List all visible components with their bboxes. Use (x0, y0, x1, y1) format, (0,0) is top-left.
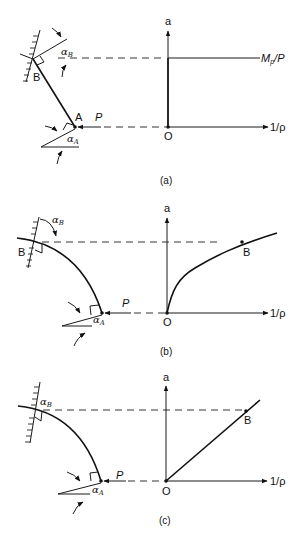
panel-a: B A P αB αA a 1/ρ O Mp/P (a) (20, 15, 285, 186)
plateau-label: Mp/P (261, 52, 285, 66)
member-ba (18, 406, 101, 481)
panel-a-graph: a 1/ρ O Mp/P (164, 15, 285, 142)
member-ba (17, 238, 102, 313)
point-b-dot (244, 409, 248, 413)
label-alpha-a: αA (92, 484, 104, 497)
caption-a: (a) (160, 175, 172, 186)
caption-c: (c) (159, 515, 171, 526)
origin-label: O (163, 316, 172, 328)
origin-dot (164, 479, 168, 483)
label-a: A (75, 111, 83, 123)
panel-b: B P αB αA a 1/ρ O B (b) (17, 202, 285, 357)
wall-b (30, 382, 40, 443)
label-p: P (95, 111, 103, 123)
origin-label: O (164, 130, 173, 142)
y-axis-label: a (164, 202, 171, 214)
x-axis-label: 1/ρ (270, 475, 285, 487)
figure-canvas: B A P αB αA a 1/ρ O Mp/P (a) (0, 0, 302, 541)
point-b-dot (240, 240, 244, 244)
point-b-label: B (244, 414, 251, 426)
curve (167, 233, 277, 313)
label-alpha-a: αA (67, 133, 79, 146)
member-ba (33, 59, 75, 127)
point-a (99, 479, 103, 483)
label-alpha-b: αB (52, 214, 64, 227)
panel-a-structure: B A P αB αA (20, 28, 103, 164)
label-p: P (116, 469, 124, 481)
label-p: P (122, 297, 130, 309)
panel-c-structure: P αB αA (18, 382, 126, 514)
label-b: B (18, 246, 25, 258)
panel-b-graph: a 1/ρ O B (163, 202, 285, 328)
rotation-arrow-a-bottom (74, 333, 85, 346)
panel-b-structure: B P αB αA (17, 214, 131, 346)
rotation-arrow-b-top (52, 28, 61, 37)
rotation-arrow-a-bottom (73, 502, 83, 514)
y-axis-label: a (163, 371, 170, 383)
rotation-arrow-a-top (45, 126, 57, 131)
y-axis-label: a (165, 15, 172, 27)
panel-c-graph: a 1/ρ O B (162, 371, 285, 497)
x-axis-label: 1/ρ (270, 121, 285, 133)
rotation-arrow-a-top (68, 302, 80, 313)
origin-dot (166, 125, 170, 129)
panel-c: P αB αA a 1/ρ O B (c) (18, 371, 285, 526)
point-a (73, 125, 77, 129)
caption-b: (b) (160, 346, 172, 357)
rotation-arrow-b-bottom (62, 65, 66, 77)
label-b: B (33, 71, 40, 83)
origin-dot (165, 311, 169, 315)
point-b-label: B (243, 246, 250, 258)
origin-label: O (162, 485, 171, 497)
point-a (100, 311, 104, 315)
label-alpha-b: αB (61, 46, 73, 59)
rotation-arrow-a-bottom (57, 151, 62, 164)
label-alpha-a: αA (93, 314, 105, 327)
label-alpha-b: αB (40, 396, 52, 409)
rotation-arrow-a-top (67, 472, 80, 481)
x-axis-label: 1/ρ (270, 307, 285, 319)
